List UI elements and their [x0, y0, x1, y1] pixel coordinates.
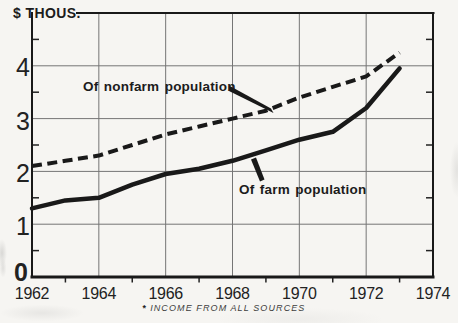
x-tick-label-1972: 1972: [349, 285, 383, 303]
leader-farm: [251, 158, 265, 182]
series-line-nonfarm: [32, 53, 400, 167]
y-tick-label-2: 2: [16, 159, 29, 188]
x-tick-label-1974: 1974: [416, 285, 450, 303]
y-tick-label-3: 3: [16, 107, 29, 136]
chart-footnote: *INCOME FROM ALL SOURCES: [143, 303, 306, 313]
x-tick-label-1962: 1962: [15, 285, 49, 303]
gridlines: [32, 13, 433, 277]
y-tick-label-4: 4: [16, 53, 29, 82]
label-leaders: [229, 86, 274, 182]
y-tick-label-0: 0: [14, 258, 27, 287]
chart-canvas: [0, 0, 458, 323]
x-tick-label-1966: 1966: [148, 285, 182, 303]
x-tick-label-1968: 1968: [215, 285, 249, 303]
x-tick-label-1964: 1964: [82, 285, 116, 303]
chart-title: $ THOUS.: [13, 5, 81, 21]
series-label-farm: Of farm population: [239, 182, 366, 197]
footnote-asterisk-icon: *: [143, 303, 148, 313]
series-label-nonfarm: Of nonfarm population: [83, 79, 236, 94]
y-tick-label-1: 1: [16, 212, 29, 241]
chart-figure: $ THOUS. 4 3 2 1 0 1962 1964 1966 1968 1…: [0, 0, 458, 323]
x-tick-label-1970: 1970: [282, 285, 316, 303]
footnote-text: INCOME FROM ALL SOURCES: [150, 303, 305, 313]
